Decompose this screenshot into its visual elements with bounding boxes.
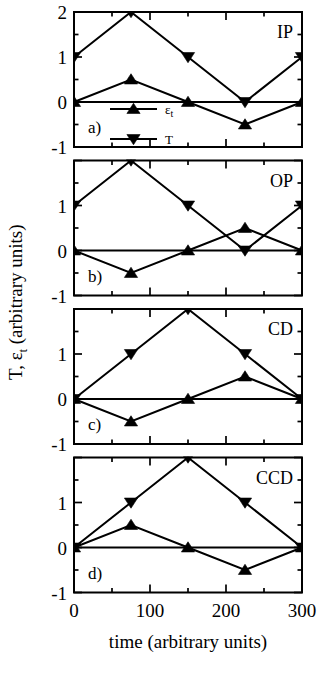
panel-letter-d: d) [88, 564, 102, 583]
x-tick-label: 300 [288, 600, 317, 621]
y-tick-label: 0 [58, 241, 68, 262]
y-tick-label: 0 [58, 92, 68, 113]
panel-a: -1012IPa)εtT [51, 2, 308, 158]
panel-letter-c: c) [88, 415, 101, 434]
y-tick-label: 0 [58, 389, 68, 410]
y-tick-label: 1 [58, 47, 68, 68]
y-tick-label: 1 [58, 196, 68, 217]
data-point-up-triangle [238, 119, 251, 129]
x-tick-label: 100 [136, 600, 165, 621]
y-tick-label: -1 [51, 583, 67, 604]
y-tick-label: 1 [58, 493, 68, 514]
data-point-up-triangle [124, 74, 137, 84]
panel-frame [74, 161, 302, 296]
panel-letter-b: b) [88, 267, 102, 286]
panel-tag-b: OP [270, 171, 293, 191]
legend-label-1: T [165, 132, 173, 147]
panel-frame [74, 12, 302, 147]
data-point-up-triangle [124, 519, 137, 529]
y-tick-label: -1 [51, 137, 67, 158]
y-tick-label: 0 [58, 538, 68, 559]
panel-tag-c: CD [268, 319, 293, 339]
panel-series-a [67, 8, 308, 129]
data-point-up-triangle [238, 371, 251, 381]
data-point-up-triangle [124, 416, 137, 426]
panel-c: -101CDc) [51, 305, 308, 455]
data-point-up-triangle [124, 267, 137, 277]
y-tick-label: 2 [58, 2, 68, 23]
data-point-up-triangle [238, 564, 251, 574]
data-point-up-triangle [238, 222, 251, 232]
y-tick-label: 1 [58, 344, 68, 365]
multi-panel-line-chart: -1012IPa)εtT-101OPb)-101CDc)-101CCDd)010… [0, 0, 319, 690]
legend-label-0: εt [165, 102, 173, 119]
y-axis-title: T, εt (arbitrary units) [5, 224, 30, 380]
x-tick-label: 0 [69, 600, 79, 621]
panel-tag-d: CCD [256, 468, 293, 488]
y-tick-label: -1 [51, 286, 67, 307]
y-tick-label: -1 [51, 434, 67, 455]
panel-letter-a: a) [88, 118, 101, 137]
x-axis-title: time (arbitrary units) [109, 631, 267, 653]
legend: εtT [110, 102, 173, 147]
x-tick-label: 200 [212, 600, 241, 621]
panel-b: -101OPb) [51, 156, 308, 306]
panel-tag-a: IP [277, 22, 293, 42]
panel-d: -101CCDd) [51, 453, 308, 603]
figure-container: -1012IPa)εtT-101OPb)-101CDc)-101CCDd)010… [0, 0, 319, 690]
